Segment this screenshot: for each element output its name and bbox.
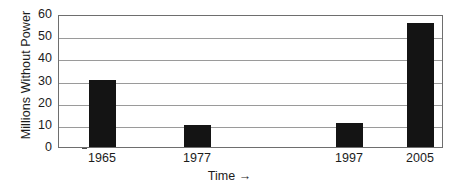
gridline bbox=[59, 60, 442, 61]
y-axis-tick-label: 40 bbox=[30, 52, 52, 65]
y-axis-tick-labels: 0102030405060 bbox=[28, 0, 52, 186]
y-axis-tick-label: 60 bbox=[30, 8, 52, 21]
bar-1965 bbox=[89, 80, 116, 147]
bar-1997 bbox=[336, 123, 363, 147]
y-axis-tick-label: 10 bbox=[30, 119, 52, 132]
y-axis-tick-label: 20 bbox=[30, 97, 52, 110]
bar-1977 bbox=[184, 125, 211, 147]
y-axis-tick-label: 0 bbox=[30, 141, 52, 154]
plot-area bbox=[58, 15, 443, 148]
x-axis-title: Time → bbox=[0, 169, 459, 183]
gridline bbox=[59, 105, 442, 106]
x-axis-tick-label-2005: 2005 bbox=[406, 151, 434, 165]
x-axis-title-text: Time → bbox=[208, 169, 251, 183]
gridline bbox=[59, 38, 442, 39]
x-axis-tick-label-1997: 1997 bbox=[335, 151, 363, 165]
y-axis-tick-label: 30 bbox=[30, 75, 52, 88]
gridline bbox=[59, 127, 442, 128]
y-axis-tick-label: 50 bbox=[30, 30, 52, 43]
gridline bbox=[59, 83, 442, 84]
chart-figure: Millions Without Power 0102030405060 196… bbox=[0, 0, 459, 186]
y-axis-tick-mark bbox=[82, 148, 87, 149]
x-axis-tick-label-1965: 1965 bbox=[88, 151, 116, 165]
x-axis-tick-label-1977: 1977 bbox=[183, 151, 211, 165]
bar-2005 bbox=[407, 23, 434, 147]
